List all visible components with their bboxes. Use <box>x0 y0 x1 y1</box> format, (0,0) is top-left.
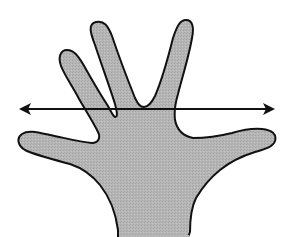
hand-diagram-svg <box>0 0 294 237</box>
hand-shape <box>18 20 275 237</box>
hand-diagram: Hand with horizontal double-headed arrow <box>0 0 294 237</box>
